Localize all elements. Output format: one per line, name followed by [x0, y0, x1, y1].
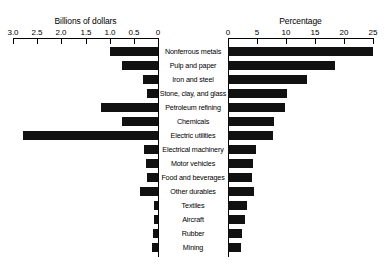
bar-row: Textiles	[0, 198, 385, 212]
left-axis-title: Billions of dollars	[13, 16, 158, 26]
bar-row: Chemicals	[0, 114, 385, 128]
bar-row: Aircraft	[0, 212, 385, 226]
left-tick-label: 2.5	[26, 28, 48, 37]
bar-row: Other durables	[0, 184, 385, 198]
bar-right-8	[228, 145, 256, 154]
bar-right-15	[228, 243, 241, 252]
bar-left-11	[140, 187, 158, 196]
category-label: Other durables	[158, 186, 228, 197]
right-tick-label: 15	[304, 28, 326, 37]
category-label: Stone, clay, and glass	[158, 88, 228, 99]
category-label: Motor vehicles	[158, 158, 228, 169]
bar-right-2	[228, 61, 335, 70]
left-tick-label: 0	[147, 28, 169, 37]
bar-row: Nonferrous metals	[0, 44, 385, 58]
bar-row: Food and beverages	[0, 170, 385, 184]
bar-row: Motor vehicles	[0, 156, 385, 170]
bar-right-4	[228, 89, 287, 98]
category-label: Pulp and paper	[158, 60, 228, 71]
category-label: Textiles	[158, 200, 228, 211]
bar-row: Mining	[0, 240, 385, 254]
bar-right-12	[228, 201, 247, 210]
right-tick-label: 25	[362, 28, 384, 37]
bar-left-3	[143, 75, 158, 84]
bar-right-7	[228, 131, 273, 140]
left-tick-label: 0.5	[123, 28, 145, 37]
bar-row: Electrical machinery	[0, 142, 385, 156]
right-axis-line	[228, 38, 374, 39]
bar-left-8	[144, 145, 158, 154]
category-label: Aircraft	[158, 214, 228, 225]
bar-left-10	[147, 173, 158, 182]
bar-right-6	[228, 117, 274, 126]
bar-left-5	[101, 103, 158, 112]
bar-right-1	[228, 47, 373, 56]
left-tick-label: 2.0	[50, 28, 72, 37]
bar-right-14	[228, 229, 242, 238]
bar-left-4	[147, 89, 158, 98]
right-axis-title: Percentage	[228, 16, 373, 26]
bar-left-1	[110, 47, 158, 56]
bar-row: Electric utilities	[0, 128, 385, 142]
category-label: Petroleum refining	[158, 102, 228, 113]
bar-right-5	[228, 103, 285, 112]
category-label: Nonferrous metals	[158, 46, 228, 57]
category-label: Electric utilities	[158, 130, 228, 141]
bar-left-9	[146, 159, 158, 168]
bar-right-11	[228, 187, 254, 196]
right-tick-label: 10	[275, 28, 297, 37]
bar-rows: Nonferrous metalsPulp and paperIron and …	[0, 44, 385, 254]
bar-left-7	[23, 131, 158, 140]
bidirectional-bar-chart: Billions of dollars Percentage 3.02.52.0…	[0, 0, 385, 265]
bar-left-2	[122, 61, 158, 70]
category-label: Mining	[158, 242, 228, 253]
left-tick-label: 1.5	[75, 28, 97, 37]
bar-row: Iron and steel	[0, 72, 385, 86]
right-tick-label: 20	[333, 28, 355, 37]
bar-right-10	[228, 173, 252, 182]
category-label: Chemicals	[158, 116, 228, 127]
right-tick-label: 0	[217, 28, 239, 37]
category-label: Iron and steel	[158, 74, 228, 85]
left-tick-label: 3.0	[2, 28, 24, 37]
bar-row: Stone, clay, and glass	[0, 86, 385, 100]
left-tick-label: 1.0	[99, 28, 121, 37]
bar-right-9	[228, 159, 253, 168]
category-label: Electrical machinery	[158, 144, 228, 155]
right-tick-label: 5	[246, 28, 268, 37]
bar-row: Rubber	[0, 226, 385, 240]
bar-row: Pulp and paper	[0, 58, 385, 72]
bar-row: Petroleum refining	[0, 100, 385, 114]
bar-left-6	[122, 117, 158, 126]
category-label: Food and beverages	[158, 172, 228, 183]
bar-right-3	[228, 75, 307, 84]
category-label: Rubber	[158, 228, 228, 239]
bar-right-13	[228, 215, 245, 224]
